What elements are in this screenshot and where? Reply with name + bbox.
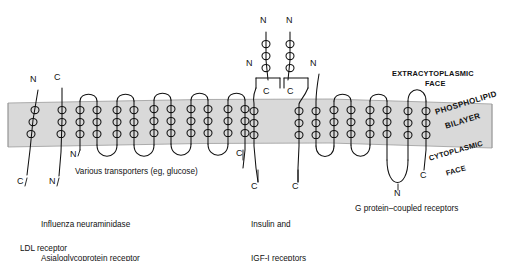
terminus-c-alpha-1: C [263,86,270,97]
terminus-c-typeii: C [54,72,61,83]
terminus-c-transporter: C [236,148,243,159]
terminus-n-ldl: N [30,74,37,85]
terminus-c-beta-2: C [292,181,299,192]
caption-influenza-neuraminidase: Influenza neuraminidase [41,219,140,230]
terminus-c-alpha-2: C [287,86,294,97]
caption-gpcr: G protein–coupled receptors [355,203,458,214]
terminus-c-gpcr: C [420,170,427,181]
extracytoplasmic-face-label-line2: FACE [425,80,446,89]
terminus-c-ldl: C [17,176,24,187]
caption-ldl-receptor: LDL receptor [20,243,67,254]
terminus-n-beta-1: N [246,58,253,69]
terminus-n-typeii: N [49,176,56,187]
terminus-n-alpha-2: N [286,15,293,26]
terminus-n-gpcr: N [394,188,401,199]
terminus-n-alpha-1: N [260,15,267,26]
caption-insulin-line1: Insulin and [251,219,306,230]
terminus-n-transporter: N [70,149,77,160]
extracytoplasmic-face-label-line1: EXTRACYTOPLASMIC [392,70,474,79]
caption-insulin-line2: IGF-I receptors [251,253,306,261]
terminus-c-beta-1: C [251,181,258,192]
caption-transporters: Various transporters (eg, glucose) [75,166,198,177]
terminus-n-beta-2: N [310,58,317,69]
caption-insulin-receptor: Insulin and IGF-I receptors [251,196,306,261]
